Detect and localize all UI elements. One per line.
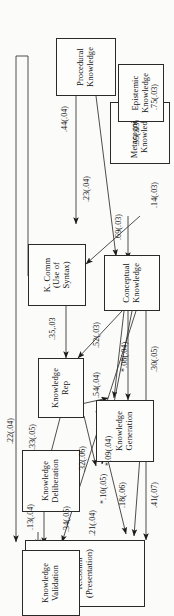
edge-label-e_09: *.09(.04) [104, 436, 113, 466]
node-label: Knowledge Deliberation [41, 455, 60, 507]
node-label: Epistemic Knowledge [131, 69, 150, 117]
node-validation[interactable]: Knowledge Validation [22, 550, 80, 616]
edge-label-e_69: .69(.03) [114, 214, 123, 240]
node-kcomm-syntax[interactable]: K. Comm (Use of Syntax) [28, 244, 86, 306]
edge-label-e_14: .14(.03) [150, 182, 159, 208]
edge-label-e_23: .23(.04) [82, 176, 91, 202]
edge-label-e_08: *.08(.04) [120, 342, 129, 372]
edge-label-e_55: .55(.03) [132, 120, 141, 146]
edge-label-e_22: .22(.04) [6, 418, 15, 444]
rotated-diagram-layer: K.Comm (Presentation) Knowledge Validati… [0, 0, 174, 616]
edge-label-e_32: .32(.06) [78, 446, 87, 472]
node-label: Knowledge Rep [51, 364, 70, 412]
node-procedural-knowledge[interactable]: Procedural Knowledge [56, 38, 116, 96]
node-label: Knowledge Generation [115, 407, 134, 455]
edge-e_18 [134, 456, 140, 536]
diagram-canvas: K.Comm (Presentation) Knowledge Validati… [0, 0, 174, 616]
node-label: Knowledge Validation [41, 559, 60, 607]
edge-label-e_21: .21(.04) [88, 510, 97, 536]
node-label: Procedural Knowledge [76, 43, 95, 91]
edge-label-e_34: .34(.05) [62, 506, 71, 532]
edge-label-e_35: .35,.03 [48, 317, 57, 340]
node-conceptual-knowledge[interactable]: Conceptual Knowledge [104, 255, 160, 311]
edge-label-e_44: .44(.04) [60, 106, 69, 132]
edge-label-e_33: .33(.05) [28, 424, 37, 450]
edge-label-e_13: .13(.04) [26, 504, 35, 530]
node-label: K. Comm (Use of Syntax) [43, 245, 72, 305]
edge-label-e_52: .52(.03) [92, 322, 101, 348]
edge-label-e_18: .18(.06) [118, 482, 127, 508]
edge-label-e_10: *.10(.05) [99, 474, 108, 504]
edge-label-e_75: .75(.03) [150, 84, 159, 110]
node-knowledge-rep[interactable]: Knowledge Rep [38, 358, 84, 418]
edge-label-e_41: .41(.07) [150, 482, 159, 508]
edge-label-e_54: .54(.04) [92, 372, 101, 398]
node-label: Conceptual Knowledge [122, 259, 141, 307]
edge-label-e_30: .30(.05) [150, 346, 159, 372]
node-knowledge-deliberation[interactable]: Knowledge Deliberation [22, 450, 80, 512]
